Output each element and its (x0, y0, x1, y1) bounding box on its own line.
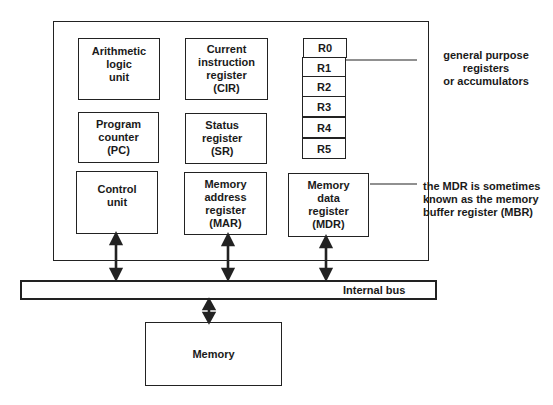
arrow-up-icon (321, 237, 331, 247)
arrow-down-icon (321, 269, 331, 279)
arrow-down-icon (111, 269, 121, 279)
arrow-up-icon (111, 234, 121, 244)
arrow-down-icon (223, 269, 233, 279)
connectors-layer (0, 0, 553, 405)
arrow-up-icon (204, 300, 214, 309)
arrow-up-icon (223, 235, 233, 245)
arrow-down-icon (204, 313, 214, 322)
